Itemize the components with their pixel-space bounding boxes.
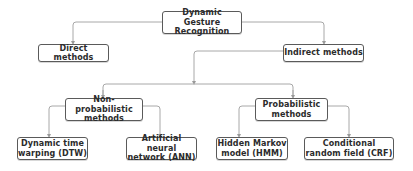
node-label-line2: random field (CRF) [306, 149, 393, 159]
node-ann: Artificial neural network (ANN) [126, 137, 197, 160]
connector-prob-crf [327, 106, 349, 136]
node-hmm: Hidden Markov model (HMM) [216, 137, 288, 160]
connector-prob-hmm [239, 106, 255, 136]
node-indirect-methods: Indirect methods [283, 44, 364, 62]
diagram-canvas: Dynamic Gesture Recognition Direct metho… [0, 0, 413, 171]
node-label-line1: Conditional [306, 139, 393, 149]
node-label-line2: network (ANN) [127, 153, 196, 163]
node-dtw: Dynamic time warping (DTW) [17, 137, 88, 160]
node-label: Direct methods [39, 44, 108, 63]
connector-indirect-bus [194, 51, 283, 83]
node-label-line2: methods [263, 110, 321, 120]
node-probabilistic-methods: Probabilistic methods [255, 98, 328, 121]
node-label-line1: Probabilistic [263, 100, 321, 110]
connector-root-indirect [241, 22, 324, 43]
connector-nonprob-dtw [49, 106, 65, 136]
node-crf: Conditional random field (CRF) [304, 137, 394, 160]
node-label-line2: Recognition [163, 27, 241, 37]
node-label-line1: Artificial neural [127, 134, 196, 153]
node-label-line1: Dynamic time [18, 139, 87, 149]
node-label-line1: Hidden Markov [217, 139, 286, 149]
node-non-probabilistic-methods: Non-probabilistic methods [65, 98, 143, 121]
node-label-line1: Dynamic Gesture [163, 8, 241, 27]
node-label-line2: model (HMM) [217, 149, 286, 159]
node-label-line2: methods [66, 114, 142, 124]
node-label: Indirect methods [284, 48, 363, 58]
connector-root-direct [73, 22, 162, 43]
node-label-line2: warping (DTW) [18, 149, 87, 159]
connector-nonprob-ann [142, 106, 160, 136]
node-label-line1: Non-probabilistic [66, 95, 142, 114]
node-dynamic-gesture-recognition: Dynamic Gesture Recognition [162, 11, 242, 34]
node-direct-methods: Direct methods [38, 44, 109, 62]
